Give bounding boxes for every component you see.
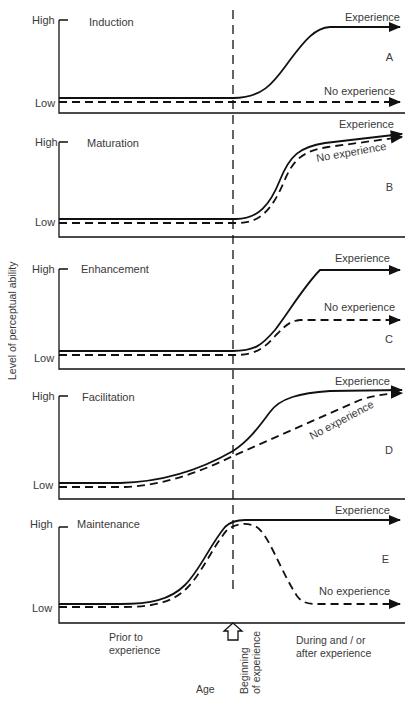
tick-low: Low [35, 97, 55, 109]
experience-label: Experience [335, 375, 390, 387]
panel-letter: A [386, 51, 394, 63]
panel-letter: E [382, 553, 389, 565]
experience-label: Experience [335, 252, 390, 264]
no-experience-label: No experience [307, 398, 375, 442]
y-axis-label: Level of perceptual ability [6, 261, 18, 380]
panel-title: Facilitation [82, 391, 135, 403]
experience-label: Experience [345, 11, 400, 23]
panel-title: Maturation [87, 137, 139, 149]
tick-high: High [32, 263, 55, 275]
tick-low: Low [34, 352, 54, 364]
prior-label-2: experience [109, 644, 161, 656]
panel-d: High Low Facilitation Experience No expe… [32, 375, 405, 499]
tick-low: Low [33, 479, 53, 491]
no-experience-curve [59, 320, 400, 355]
axes-a [59, 20, 405, 113]
marker-label-1: Beginning [238, 647, 250, 694]
marker-label-2: of experience [250, 631, 262, 694]
no-experience-label: No experience [324, 301, 395, 313]
panel-b: High Low Maturation Experience No experi… [35, 118, 405, 237]
tick-high: High [32, 390, 55, 402]
tick-low: Low [35, 216, 55, 228]
tick-high: High [32, 14, 55, 26]
panel-letter: B [386, 181, 393, 193]
panel-e: High Low Maintenance Experience No exper… [30, 504, 405, 623]
axes-c [59, 269, 405, 369]
panel-title: Maintenance [77, 518, 140, 530]
experience-label: Experience [339, 118, 394, 130]
tick-high: High [35, 136, 58, 148]
after-label-2: after experience [296, 647, 371, 659]
prior-label-1: Prior to [109, 631, 143, 643]
panel-a: High Low Induction Experience No experie… [32, 11, 405, 113]
x-axis-label: Age [196, 683, 215, 695]
tick-high: High [30, 518, 53, 530]
no-experience-label: No experience [319, 585, 390, 597]
tick-low: Low [32, 602, 52, 614]
panel-c: High Low Enhancement Experience No exper… [32, 252, 405, 369]
panel-title: Enhancement [81, 263, 149, 275]
figure-canvas: Level of perceptual ability High Low Ind… [0, 0, 419, 703]
panel-letter: C [385, 333, 393, 345]
no-experience-label: No experience [324, 85, 395, 97]
experience-label: Experience [335, 504, 390, 516]
after-label-1: During and / or [296, 634, 366, 646]
panel-letter: D [385, 444, 393, 456]
axes-e [59, 527, 405, 623]
onset-arrow-icon [224, 623, 242, 640]
panel-title: Induction [89, 16, 134, 28]
experience-curve [59, 390, 402, 483]
